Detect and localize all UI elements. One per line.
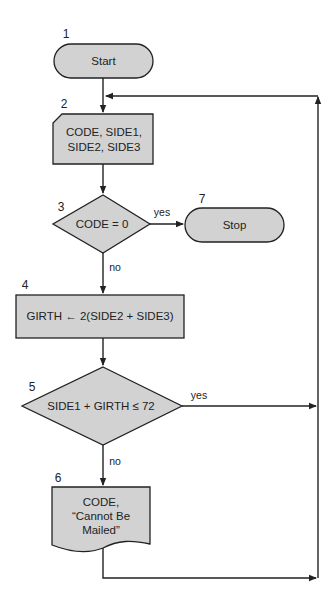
- edge-label-yes-3: yes: [154, 206, 170, 218]
- node-input-line2: SIDE2, SIDE3: [68, 141, 141, 153]
- node-number-6: 6: [55, 471, 62, 485]
- node-stop-label: Stop: [223, 219, 247, 231]
- node-start-label: Start: [91, 55, 116, 67]
- flowchart: Start 1 CODE, SIDE1, SIDE2, SIDE3 2 CODE…: [0, 0, 335, 604]
- edge-output-to-loop: [103, 548, 316, 578]
- edge-label-yes-5: yes: [191, 389, 207, 401]
- node-decision-size: SIDE1 + GIRTH ≤ 72 5 yes no: [22, 367, 207, 467]
- node-output-line2: “Cannot Be: [72, 510, 130, 522]
- node-process-girth: GIRTH ← 2(SIDE2 + SIDE3) 4: [16, 278, 184, 338]
- node-start: Start 1: [54, 27, 153, 78]
- node-number-3: 3: [58, 200, 65, 214]
- node-output-line3: Mailed”: [82, 524, 120, 536]
- node-output-document: CODE, “Cannot Be Mailed” 6: [52, 471, 150, 552]
- node-process-girth-label: GIRTH ← 2(SIDE2 + SIDE3): [26, 310, 173, 322]
- node-decision-code: CODE = 0 3 yes no: [53, 195, 170, 273]
- node-stop: Stop 7: [185, 192, 284, 242]
- node-decision-code-label: CODE = 0: [76, 218, 129, 230]
- node-number-2: 2: [61, 97, 68, 111]
- node-number-1: 1: [63, 27, 70, 41]
- node-number-7: 7: [199, 192, 206, 206]
- node-input-line1: CODE, SIDE1,: [66, 126, 142, 138]
- node-number-5: 5: [29, 380, 36, 394]
- edge-label-no-5: no: [109, 455, 121, 467]
- node-decision-size-label: SIDE1 + GIRTH ≤ 72: [47, 400, 154, 412]
- edge-label-no-3: no: [109, 261, 121, 273]
- node-number-4: 4: [22, 278, 29, 292]
- node-output-line1: CODE,: [83, 496, 119, 508]
